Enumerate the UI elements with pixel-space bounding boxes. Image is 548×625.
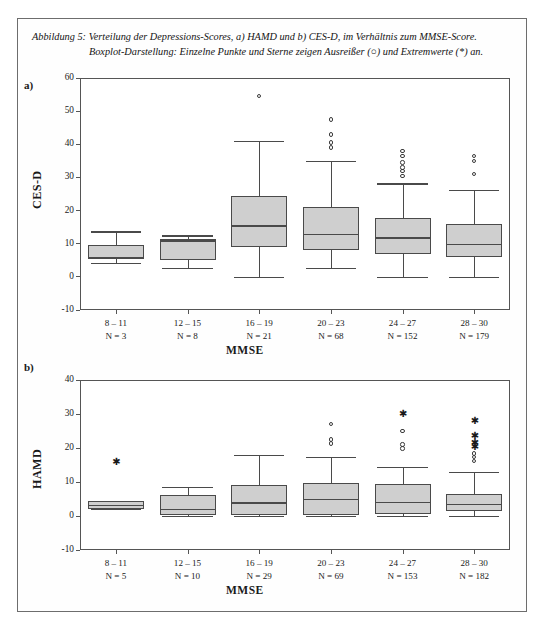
y-tick-label: 40 (44, 138, 74, 148)
x-category-range: 28 – 30 (461, 318, 488, 328)
whisker-cap-lower (377, 277, 427, 278)
whisker-cap-lower (91, 509, 141, 510)
panel-letter-a: a) (24, 79, 33, 91)
box (231, 485, 287, 515)
whisker-cap-upper (449, 190, 499, 191)
median-line (88, 505, 144, 506)
y-tick-label: 10 (44, 238, 74, 248)
outlier-circle-icon (400, 154, 404, 158)
y-tick-label: 20 (44, 205, 74, 215)
whisker-cap-lower (162, 516, 212, 517)
box (375, 484, 431, 514)
x-category-range: 20 – 23 (317, 318, 344, 328)
y-tick-mark (76, 310, 80, 311)
whisker-lower (188, 260, 189, 268)
outlier-circle-icon (329, 117, 333, 121)
box (303, 207, 359, 250)
y-tick-mark (76, 414, 80, 415)
whisker-cap-upper (162, 487, 212, 488)
whisker-cap-lower (234, 277, 284, 278)
whisker-cap-lower (234, 516, 284, 517)
box (160, 495, 216, 515)
box (446, 224, 502, 257)
box (88, 245, 144, 259)
whisker-cap-upper (162, 235, 212, 236)
x-tick-mark (188, 550, 189, 554)
y-tick-mark (76, 276, 80, 277)
x-category-range: 20 – 23 (317, 558, 344, 568)
x-category-count: N = 153 (363, 570, 443, 583)
outlier-circle-icon (329, 140, 333, 144)
x-category-label: 12 – 15N = 8 (148, 317, 228, 342)
plot-area-cesd (80, 78, 510, 310)
y-tick-label: -10 (44, 544, 74, 554)
outlier-circle-icon (400, 160, 404, 164)
median-line (446, 504, 502, 505)
x-tick-mark (331, 550, 332, 554)
y-tick-label: 60 (44, 72, 74, 82)
y-tick-label: 40 (44, 374, 74, 384)
median-line (303, 234, 359, 235)
x-category-range: 16 – 19 (246, 318, 273, 328)
x-category-label: 16 – 19N = 21 (219, 317, 299, 342)
x-category-count: N = 182 (434, 570, 514, 583)
whisker-cap-upper (449, 472, 499, 473)
x-category-label: 16 – 19N = 29 (219, 557, 299, 582)
y-tick-mark (76, 144, 80, 145)
whisker-cap-lower (377, 516, 427, 517)
x-tick-mark (403, 310, 404, 314)
y-tick-label: 0 (44, 271, 74, 281)
x-tick-mark (259, 310, 260, 314)
y-tick-label: 30 (44, 408, 74, 418)
y-tick-label: 10 (44, 476, 74, 486)
caption-line-2: Boxplot-Darstellung: Einzelne Punkte und… (32, 44, 516, 59)
x-category-count: N = 5 (76, 570, 156, 583)
x-tick-mark (331, 310, 332, 314)
x-category-range: 24 – 27 (389, 318, 416, 328)
x-category-range: 28 – 30 (461, 558, 488, 568)
x-tick-mark (403, 550, 404, 554)
whisker-upper (259, 141, 260, 196)
y-tick-label: 20 (44, 442, 74, 452)
y-tick-label: -10 (44, 304, 74, 314)
figure-caption: Abbildung 5: Verteilung der Depressions-… (32, 29, 516, 59)
extreme-star-icon: ✱ (399, 412, 406, 416)
x-axis-title-hamd: MMSE (226, 584, 264, 596)
x-category-label: 8 – 11N = 5 (76, 557, 156, 582)
whisker-upper (331, 161, 332, 207)
outlier-circle-icon (329, 145, 333, 149)
whisker-upper (259, 455, 260, 486)
x-category-count: N = 10 (148, 570, 228, 583)
whisker-cap-upper (306, 161, 356, 162)
whisker-cap-lower (162, 268, 212, 269)
x-category-count: N = 3 (76, 330, 156, 343)
x-category-range: 24 – 27 (389, 558, 416, 568)
x-category-count: N = 68 (291, 330, 371, 343)
y-tick-mark (76, 550, 80, 551)
x-category-count: N = 8 (148, 330, 228, 343)
y-tick-mark (76, 380, 80, 381)
median-line (231, 502, 287, 503)
y-axis-title-hamd: HAMD (30, 449, 45, 489)
x-category-range: 12 – 15 (174, 558, 201, 568)
x-category-range: 8 – 11 (105, 558, 127, 568)
x-category-label: 8 – 11N = 3 (76, 317, 156, 342)
extreme-star-icon: ✱ (471, 445, 478, 449)
x-tick-mark (116, 550, 117, 554)
box (446, 494, 502, 511)
x-category-range: 8 – 11 (105, 318, 127, 328)
x-tick-mark (259, 550, 260, 554)
panel-letter-b: b) (24, 361, 34, 373)
x-category-label: 28 – 30N = 182 (434, 557, 514, 582)
x-category-range: 12 – 15 (174, 318, 201, 328)
y-tick-mark (76, 482, 80, 483)
x-category-range: 16 – 19 (246, 558, 273, 568)
y-tick-mark (76, 111, 80, 112)
x-category-label: 20 – 23N = 69 (291, 557, 371, 582)
y-tick-mark (76, 78, 80, 79)
whisker-cap-upper (377, 467, 427, 468)
x-category-count: N = 21 (219, 330, 299, 343)
whisker-lower (403, 254, 404, 277)
whisker-cap-upper (234, 141, 284, 142)
whisker-upper (116, 231, 117, 244)
